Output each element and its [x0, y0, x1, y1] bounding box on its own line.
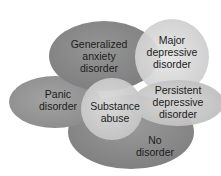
- label-line: disorder: [153, 108, 204, 120]
- label-line: disorder: [147, 58, 198, 70]
- label-line: Substance: [90, 100, 140, 112]
- label-line: Generalized: [71, 38, 128, 50]
- label-panic: Panic disorder: [39, 88, 77, 112]
- label-line: abuse: [90, 112, 140, 124]
- label-line: disorder: [39, 100, 77, 112]
- label-line: Persistent: [153, 84, 204, 96]
- label-line: Panic: [39, 88, 77, 100]
- label-line: disorder: [71, 62, 128, 74]
- label-major-depressive: Major depressive disorder: [147, 34, 198, 70]
- diagram-canvas: Generalized anxiety disorder Major depre…: [0, 0, 221, 176]
- label-line: anxiety: [71, 50, 128, 62]
- label-line: depressive: [147, 46, 198, 58]
- label-line: depressive: [153, 96, 204, 108]
- label-substance-abuse: Substance abuse: [90, 100, 140, 124]
- label-generalized-anxiety: Generalized anxiety disorder: [71, 38, 128, 74]
- label-line: disorder: [136, 146, 174, 158]
- label-persistent-depressive: Persistent depressive disorder: [153, 84, 204, 120]
- label-line: Major: [147, 34, 198, 46]
- label-line: No: [136, 134, 174, 146]
- label-no-disorder: No disorder: [136, 134, 174, 158]
